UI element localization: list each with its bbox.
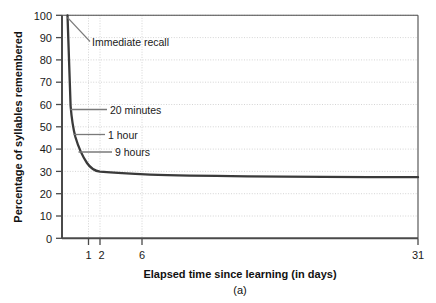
annotation-20-minutes: 20 minutes bbox=[110, 104, 161, 116]
y-tick-label-0: 0 bbox=[46, 233, 52, 245]
y-tick-label-100: 100 bbox=[34, 10, 52, 22]
x-tick-label-6: 6 bbox=[139, 249, 145, 261]
y-tick-label-80: 80 bbox=[40, 54, 52, 66]
x-axis-title: Elapsed time since learning (in days) bbox=[143, 268, 337, 280]
y-tick-label-60: 60 bbox=[40, 99, 52, 111]
forgetting-curve-figure: 100 90 80 70 60 50 40 30 20 10 0 1 2 6 3… bbox=[0, 0, 436, 303]
annotation-1-hour: 1 hour bbox=[108, 129, 138, 141]
y-tick-label-20: 20 bbox=[40, 188, 52, 200]
x-tick-label-2: 2 bbox=[98, 249, 104, 261]
y-tick-label-40: 40 bbox=[40, 143, 52, 155]
y-tick-label-70: 70 bbox=[40, 76, 52, 88]
figure-caption: (a) bbox=[233, 284, 246, 296]
figure-background bbox=[0, 0, 436, 303]
y-tick-label-50: 50 bbox=[40, 121, 52, 133]
y-tick-label-30: 30 bbox=[40, 166, 52, 178]
chart-canvas: 100 90 80 70 60 50 40 30 20 10 0 1 2 6 3… bbox=[0, 0, 436, 303]
y-tick-label-10: 10 bbox=[40, 210, 52, 222]
annotation-9-hours: 9 hours bbox=[115, 146, 150, 158]
annotation-immediate-recall: Immediate recall bbox=[92, 36, 169, 48]
y-axis-title: Percentage of syllables remembered bbox=[12, 31, 24, 222]
y-tick-label-90: 90 bbox=[40, 32, 52, 44]
x-tick-label-31: 31 bbox=[412, 249, 424, 261]
x-tick-label-1: 1 bbox=[85, 249, 91, 261]
